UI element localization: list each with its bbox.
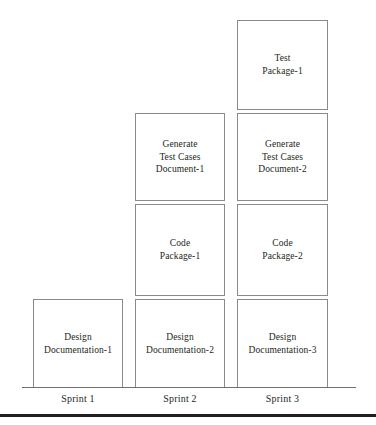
block-label-line-2: Package-2 <box>262 251 302 261</box>
block-test-package-1: TestPackage-1 <box>237 20 328 110</box>
block-design-documentation-3: DesignDocumentation-3 <box>237 299 328 388</box>
column-sprint-2: GenerateTest CasesDocument-1 CodePackage… <box>135 113 225 388</box>
category-axis-labels: Sprint 1 Sprint 2 Sprint 3 <box>0 391 376 409</box>
block-label: GenerateTest CasesDocument-2 <box>256 138 309 176</box>
block-label-line-2: Documentation-3 <box>249 345 317 355</box>
column-sprint-3: TestPackage-1 GenerateTest CasesDocument… <box>237 20 328 388</box>
block-label: DesignDocumentation-2 <box>144 331 216 357</box>
bottom-divider-rule <box>0 414 376 417</box>
baseline-axis <box>22 387 356 388</box>
block-label-line-2: Test Cases <box>262 152 303 162</box>
category-label-sprint-1: Sprint 1 <box>33 391 123 407</box>
block-label-line-1: Code <box>272 238 292 248</box>
block-label-line-3: Document-1 <box>156 164 205 174</box>
block-label-line-1: Code <box>170 238 190 248</box>
category-label-sprint-3: Sprint 3 <box>237 391 328 407</box>
block-label: DesignDocumentation-3 <box>247 331 319 357</box>
block-label-line-3: Document-2 <box>258 164 307 174</box>
block-label-line-2: Documentation-2 <box>146 345 214 355</box>
block-label-line-2: Test Cases <box>159 152 200 162</box>
block-label-line-1: Test <box>274 53 290 63</box>
block-label-line-2: Package-1 <box>262 66 302 76</box>
block-code-package-2: CodePackage-2 <box>237 204 328 296</box>
block-label: TestPackage-1 <box>260 52 304 78</box>
block-label-line-1: Generate <box>162 139 197 149</box>
block-label: DesignDocumentation-1 <box>42 331 114 357</box>
block-generate-test-cases-document-1: GenerateTest CasesDocument-1 <box>135 113 225 201</box>
block-label-line-2: Documentation-1 <box>44 345 112 355</box>
block-label-line-2: Package-1 <box>160 251 200 261</box>
block-label-line-1: Design <box>64 332 92 342</box>
plot-area: DesignDocumentation-1 GenerateTest Cases… <box>0 0 376 388</box>
block-label: CodePackage-1 <box>158 237 202 263</box>
block-label: CodePackage-2 <box>260 237 304 263</box>
sprint-deliverables-figure: DesignDocumentation-1 GenerateTest Cases… <box>0 0 376 425</box>
block-label-line-1: Design <box>269 332 297 342</box>
block-generate-test-cases-document-2: GenerateTest CasesDocument-2 <box>237 113 328 201</box>
block-design-documentation-2: DesignDocumentation-2 <box>135 299 225 388</box>
block-label-line-1: Design <box>166 332 194 342</box>
column-sprint-1: DesignDocumentation-1 <box>33 299 123 388</box>
category-label-sprint-2: Sprint 2 <box>135 391 225 407</box>
block-label-line-1: Generate <box>265 139 300 149</box>
block-label: GenerateTest CasesDocument-1 <box>154 138 207 176</box>
block-code-package-1: CodePackage-1 <box>135 204 225 296</box>
block-design-documentation-1: DesignDocumentation-1 <box>33 299 123 388</box>
